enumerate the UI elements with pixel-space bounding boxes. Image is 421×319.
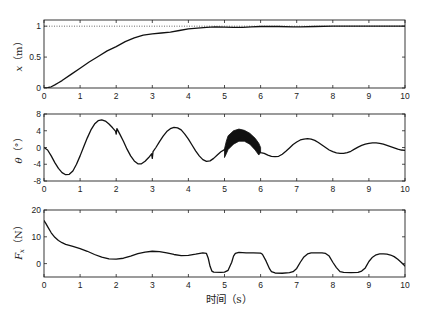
x-tick-label: 3 [150,280,155,290]
x-tick-label: 8 [330,280,335,290]
x-tick-label: 9 [367,91,372,101]
xlabel-time: 时间（s） [206,293,251,305]
x-tick-label: 7 [294,184,299,194]
y-tick-label: 0 [36,83,41,93]
x-tick-label: 8 [330,91,335,101]
y-tick-label: 1 [36,21,41,31]
x-tick-label: 0 [42,91,47,101]
x-tick-label: 9 [367,184,372,194]
x-tick-label: 2 [114,280,119,290]
x-tick-label: 1 [78,91,83,101]
x-tick-label: 2 [114,184,119,194]
x-tick-label: 4 [186,91,191,101]
ylabel-position: x（m） [13,36,24,71]
ylabel-unit: （N） [13,220,24,249]
y-tick-label: 0 [36,143,41,153]
x-tick-label: 0 [42,184,47,194]
y-tick-label: 8 [36,109,41,119]
x-tick-label: 5 [222,280,227,290]
x-tick-label: 6 [258,280,263,290]
x-tick-label: 3 [150,91,155,101]
ylabel-unit: （°） [13,132,24,157]
x-tick-label: 7 [294,91,299,101]
x-tick-label: 0 [42,280,47,290]
x-tick-label: 6 [258,91,263,101]
x-tick-label: 9 [367,280,372,290]
ylabel-unit: （m） [13,36,24,65]
y-tick-label: -8 [33,176,41,186]
x-tick-label: 10 [400,280,410,290]
y-tick-label: 4 [36,126,41,136]
figure-background [0,0,421,319]
y-tick-label: 0.5 [29,52,41,62]
y-tick-label: -4 [33,159,41,169]
x-tick-label: 3 [150,184,155,194]
y-tick-label: 0 [36,259,41,269]
x-tick-label: 5 [222,184,227,194]
ylabel-angle: θ（°） [13,132,24,163]
x-tick-label: 6 [258,184,263,194]
x-tick-label: 10 [400,184,410,194]
x-tick-label: 4 [186,280,191,290]
figure: 01234567891000.51 x（m） 012345678910-8-40… [0,0,421,319]
x-tick-label: 2 [114,91,119,101]
x-tick-label: 1 [78,184,83,194]
x-tick-label: 7 [294,280,299,290]
y-tick-label: 10 [32,232,42,242]
x-tick-label: 5 [222,91,227,101]
x-tick-label: 8 [330,184,335,194]
x-tick-label: 1 [78,280,83,290]
x-tick-label: 10 [400,91,410,101]
y-tick-label: 20 [32,205,42,215]
x-tick-label: 4 [186,184,191,194]
